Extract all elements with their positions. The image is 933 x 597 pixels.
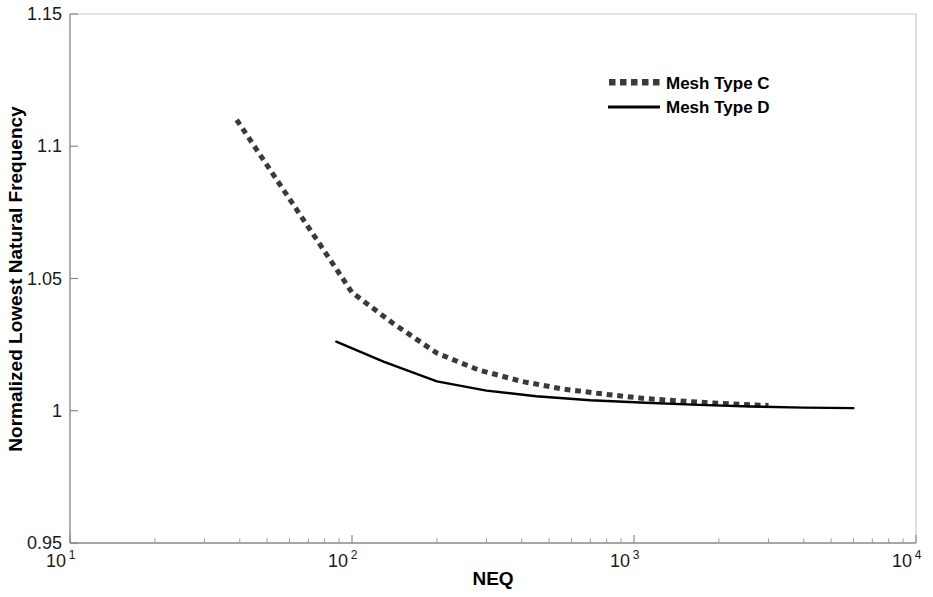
figure-background bbox=[0, 0, 933, 597]
x-axis-title: NEQ bbox=[472, 568, 513, 589]
svg-text:3: 3 bbox=[633, 548, 640, 562]
y-tick-label: 1.15 bbox=[27, 4, 62, 24]
svg-text:2: 2 bbox=[351, 548, 358, 562]
svg-text:4: 4 bbox=[915, 548, 922, 562]
y-tick-label: 0.95 bbox=[27, 533, 62, 553]
svg-text:10: 10 bbox=[46, 551, 66, 571]
svg-text:10: 10 bbox=[328, 551, 348, 571]
y-tick-label: 1.05 bbox=[27, 269, 62, 289]
y-tick-label: 1 bbox=[52, 401, 62, 421]
svg-text:10: 10 bbox=[892, 551, 912, 571]
y-tick-label: 1.1 bbox=[37, 136, 62, 156]
svg-text:10: 10 bbox=[610, 551, 630, 571]
svg-text:1: 1 bbox=[69, 548, 76, 562]
legend-label-mesh-type-c: Mesh Type C bbox=[666, 74, 770, 93]
line-chart: 101102103104 1.151.11.0510.95 NEQ Normal… bbox=[0, 0, 933, 597]
chart-figure: 101102103104 1.151.11.0510.95 NEQ Normal… bbox=[0, 0, 933, 597]
y-axis-title: Normalized Lowest Natural Frequency bbox=[5, 106, 26, 452]
legend-label-mesh-type-d: Mesh Type D bbox=[666, 98, 770, 117]
